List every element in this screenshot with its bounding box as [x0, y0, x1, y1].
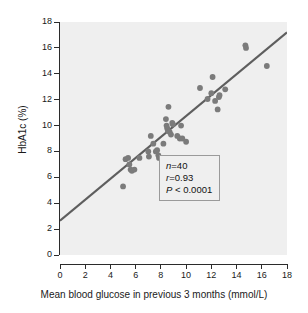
- x-axis-tick-label: 4: [98, 271, 122, 280]
- data-point: [178, 123, 184, 129]
- x-axis-tick: [160, 264, 161, 269]
- data-point: [132, 167, 138, 173]
- data-point: [163, 116, 169, 122]
- y-axis-tick: [54, 229, 59, 230]
- data-point: [150, 141, 156, 147]
- x-axis-tick: [60, 264, 61, 269]
- x-axis-title: Mean blood glucose in previous 3 months …: [0, 289, 308, 300]
- data-point: [217, 92, 223, 98]
- correlation-value: =0.93: [169, 172, 193, 183]
- x-axis-tick-label: 18: [275, 271, 299, 280]
- y-axis-tick-label: 18: [12, 17, 52, 26]
- data-point: [120, 183, 126, 189]
- data-point: [148, 133, 154, 139]
- y-axis-tick: [54, 125, 59, 126]
- data-point: [137, 155, 143, 161]
- x-axis-tick: [236, 264, 237, 269]
- x-axis-line: [60, 264, 287, 265]
- sample-size-value: =40: [171, 160, 187, 171]
- y-axis-tick: [54, 151, 59, 152]
- y-axis-title: HbA1c (%): [17, 60, 28, 200]
- data-point: [205, 96, 211, 102]
- x-axis-tick-label: 12: [199, 271, 223, 280]
- y-axis-line: [59, 22, 60, 255]
- pvalue-row: P < 0.0001: [166, 184, 212, 196]
- y-axis-tick: [54, 177, 59, 178]
- data-point: [146, 154, 152, 160]
- y-axis-tick: [54, 203, 59, 204]
- data-point: [145, 149, 151, 155]
- x-axis-tick-label: 2: [73, 271, 97, 280]
- x-axis-tick: [110, 264, 111, 269]
- x-axis-tick-label: 14: [225, 271, 249, 280]
- x-axis-tick: [261, 264, 262, 269]
- data-point: [154, 147, 160, 153]
- data-point: [215, 106, 221, 112]
- x-axis-tick: [135, 264, 136, 269]
- scatter-plot-figure: 024681012141618 024681012141618 HbA1c (%…: [0, 0, 308, 313]
- data-point: [166, 104, 172, 110]
- pvalue-value: < 0.0001: [172, 184, 212, 195]
- x-axis-tick: [211, 264, 212, 269]
- data-point: [210, 74, 216, 80]
- x-axis-tick-label: 16: [250, 271, 274, 280]
- data-point: [208, 90, 214, 96]
- x-axis-tick-label: 8: [149, 271, 173, 280]
- y-axis-tick: [54, 99, 59, 100]
- x-axis-tick-label: 10: [174, 271, 198, 280]
- data-point: [222, 86, 228, 92]
- data-point: [168, 132, 174, 138]
- data-point: [197, 85, 203, 91]
- x-axis-tick: [186, 264, 187, 269]
- data-point: [126, 161, 132, 167]
- x-axis-tick-label: 0: [48, 271, 72, 280]
- data-point: [161, 141, 167, 147]
- y-axis-tick: [54, 73, 59, 74]
- data-point: [125, 155, 131, 161]
- data-point: [170, 121, 176, 127]
- x-axis-tick: [85, 264, 86, 269]
- y-axis-tick: [54, 47, 59, 48]
- correlation-row: r=0.93: [166, 172, 212, 184]
- y-axis-tick: [54, 255, 59, 256]
- y-axis-tick-label: 0: [12, 250, 52, 259]
- data-point: [183, 139, 189, 145]
- y-axis-tick-label: 4: [12, 198, 52, 207]
- data-point: [264, 63, 270, 69]
- sample-size-row: n=40: [166, 160, 212, 172]
- plot-area: [60, 22, 287, 255]
- statistics-annotation-box: n=40 r=0.93 P < 0.0001: [159, 155, 220, 201]
- x-axis-tick-label: 6: [124, 271, 148, 280]
- plot-canvas: [60, 22, 287, 255]
- y-axis-tick-label: 16: [12, 43, 52, 52]
- y-axis-tick: [54, 22, 59, 23]
- y-axis-tick-label: 2: [12, 224, 52, 233]
- x-axis-tick: [287, 264, 288, 269]
- data-point: [243, 45, 249, 51]
